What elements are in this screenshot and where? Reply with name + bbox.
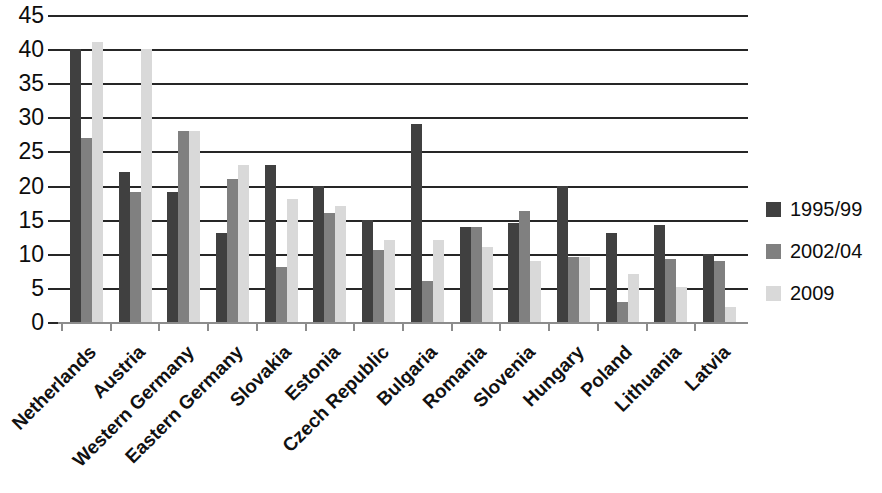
bar — [725, 307, 736, 322]
bar — [362, 220, 373, 322]
x-tick-slot — [306, 322, 355, 332]
x-tick-slot — [403, 322, 452, 332]
y-tick-label: 45 — [18, 4, 44, 27]
bar — [508, 223, 519, 322]
bar — [276, 267, 287, 322]
bar — [167, 192, 178, 322]
bar — [530, 261, 541, 322]
bar — [606, 233, 617, 322]
legend-label: 2009 — [790, 283, 835, 303]
bar — [119, 172, 130, 322]
bar — [433, 240, 444, 322]
bar-chart: 454035302520151050 NetherlandsAustriaWes… — [0, 0, 882, 493]
y-tick-label: 10 — [18, 242, 44, 265]
x-tick-slot — [111, 322, 160, 332]
y-tick-label: 20 — [18, 174, 44, 197]
legend-swatch-icon — [766, 202, 781, 217]
bar — [384, 240, 395, 322]
y-tick-label: 0 — [31, 311, 44, 334]
bar — [579, 257, 590, 322]
legend-label: 1995/99 — [790, 199, 862, 219]
bar — [287, 199, 298, 322]
bar — [557, 186, 568, 322]
bar — [373, 250, 384, 322]
bar — [227, 179, 238, 322]
bar — [70, 49, 81, 322]
legend-item: 1995/99 — [766, 188, 882, 230]
x-axis-tick — [207, 322, 209, 331]
x-tick-slot — [257, 322, 306, 332]
x-tick-slot — [500, 322, 549, 332]
bar — [568, 257, 579, 322]
x-tick-slot — [695, 322, 744, 332]
bar-group — [403, 15, 452, 322]
bar — [617, 302, 628, 322]
bar-group — [452, 15, 501, 322]
x-tick-slot — [452, 322, 501, 332]
bar-group — [598, 15, 647, 322]
bar-group — [159, 15, 208, 322]
x-axis-tick — [402, 322, 404, 331]
x-axis-tick — [597, 322, 599, 331]
bar — [141, 49, 152, 322]
legend-swatch-icon — [766, 244, 781, 259]
plot-area — [58, 15, 748, 322]
bar-group — [354, 15, 403, 322]
bar-group — [647, 15, 696, 322]
legend-item: 2009 — [766, 272, 882, 314]
legend-label: 2002/04 — [790, 241, 862, 261]
bar — [238, 165, 249, 322]
x-axis-tick — [353, 322, 355, 331]
y-tick-label: 25 — [18, 140, 44, 163]
bar — [654, 225, 665, 322]
bar — [703, 254, 714, 322]
bar — [471, 227, 482, 323]
x-axis-tick — [110, 322, 112, 331]
x-axis-tick — [646, 322, 648, 331]
bar-group — [208, 15, 257, 322]
x-axis-labels: NetherlandsAustriaWestern GermanyEastern… — [58, 336, 748, 486]
bar — [665, 259, 676, 322]
bar — [324, 213, 335, 322]
bar — [411, 124, 422, 322]
legend-item: 2002/04 — [766, 230, 882, 272]
x-tick-slot — [598, 322, 647, 332]
bar — [178, 131, 189, 322]
bar — [482, 247, 493, 322]
y-axis: 454035302520151050 — [0, 0, 50, 340]
bar-group — [549, 15, 598, 322]
x-tick-slot — [208, 322, 257, 332]
y-tick-label: 5 — [31, 276, 44, 299]
x-axis-tick — [694, 322, 696, 331]
y-tick-label: 40 — [18, 38, 44, 61]
x-axis-tick — [158, 322, 160, 331]
x-tick-slot — [354, 322, 403, 332]
bar-group — [111, 15, 160, 322]
bar — [81, 138, 92, 322]
x-tick-slot — [62, 322, 111, 332]
bar-group — [306, 15, 355, 322]
x-tick-slot — [647, 322, 696, 332]
y-tick-label: 35 — [18, 72, 44, 95]
x-axis-tick — [451, 322, 453, 331]
bar-group — [695, 15, 744, 322]
bar — [189, 131, 200, 322]
x-axis-tick — [305, 322, 307, 331]
x-axis-tick — [61, 322, 63, 331]
bar — [519, 211, 530, 322]
legend: 1995/992002/042009 — [766, 188, 882, 314]
y-tick-label: 15 — [18, 208, 44, 231]
bars-layer — [58, 15, 748, 322]
x-axis-tick — [499, 322, 501, 331]
bar — [460, 227, 471, 323]
x-axis-tick — [256, 322, 258, 331]
bar — [130, 192, 141, 322]
bar — [714, 261, 725, 322]
y-tick-label: 30 — [18, 106, 44, 129]
x-tick-slot — [549, 322, 598, 332]
legend-swatch-icon — [766, 286, 781, 301]
bar — [335, 206, 346, 322]
bar-group — [500, 15, 549, 322]
bar-group — [257, 15, 306, 322]
bar-group — [62, 15, 111, 322]
